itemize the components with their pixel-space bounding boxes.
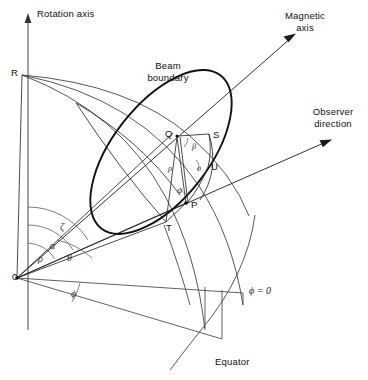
angle-label-rho-origin: ρ (38, 253, 43, 264)
meridian-arc-lower-left (164, 225, 190, 305)
equatorial-chord-phi-zero (17, 278, 243, 293)
point-label-R: R (11, 67, 18, 78)
point-label-S: S (213, 129, 219, 140)
angle-label-phi: ϕ (71, 288, 76, 299)
angle-label-psi: ψ (177, 185, 182, 195)
angle-label-zeta: ζ (60, 221, 64, 232)
sphere-grid-group (22, 75, 255, 370)
diagram-canvas (0, 0, 368, 380)
construction-lines-group (17, 278, 243, 339)
angle-arc-beta (184, 138, 188, 147)
pulsar-beam-geometry-figure: Rotation axis Magnetic axis Observer dir… (0, 0, 368, 380)
equatorial-chord-foot (17, 278, 222, 339)
dot-Q (176, 135, 179, 138)
rotation-axis-arrowhead (25, 13, 32, 23)
meridian-arc-secondary (22, 75, 205, 330)
angle-label-sigma: σ (197, 163, 201, 173)
ray-to-R (17, 75, 22, 278)
ray-origin-to-P (17, 203, 186, 278)
point-label-U: U (211, 161, 218, 172)
point-label-origin: 0 (12, 271, 17, 282)
angle-label-theta: θ (67, 252, 72, 263)
ray-origin-to-T (17, 222, 166, 278)
point-label-Q: Q (165, 128, 172, 139)
point-label-P: P (191, 199, 197, 210)
beam-cone-edges-group (76, 103, 180, 222)
segment-Q-S (178, 134, 209, 136)
magnetic-axis-arrowhead (284, 34, 297, 43)
rotation-axis-group (25, 13, 32, 330)
dot-P (184, 201, 188, 205)
beam-boundary-label-line1: Beam (140, 60, 196, 72)
beam-boundary-label-line2: boundary (134, 72, 202, 84)
angle-arc-theta (57, 240, 92, 258)
magnetic-axis-label-line2: axis (268, 22, 342, 34)
equator-label: Equator (215, 356, 250, 368)
observer-direction-label-line2: direction (300, 118, 366, 130)
observer-direction-label-line1: Observer (300, 106, 366, 118)
phi-zero-label: ϕ = 0 (249, 285, 271, 296)
origin-rays-group (17, 75, 186, 278)
observer-direction-arrowhead (320, 140, 333, 148)
angle-label-beta: β (192, 141, 196, 151)
rotation-axis-label: Rotation axis (37, 8, 95, 20)
magnetic-axis-label-line1: Magnetic (268, 10, 342, 22)
angle-label-rho-beam: ρ (168, 163, 172, 173)
equator-arc (170, 215, 255, 370)
angle-label-alpha: α (50, 240, 55, 251)
point-label-T: T (166, 222, 172, 233)
